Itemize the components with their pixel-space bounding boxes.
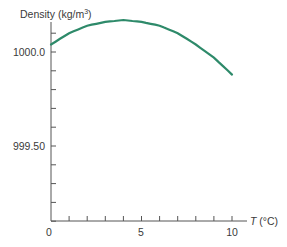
y-tick-label-1000: 1000.0 (13, 46, 45, 58)
density-curve (51, 20, 232, 75)
x-tick-label-10: 10 (226, 226, 238, 238)
density-chart: Density (kg/m3) 1000.0 999.50 0 5 10 T (… (0, 0, 287, 247)
y-tick-label-999-50: 999.50 (13, 140, 45, 152)
x-ticks (69, 216, 232, 221)
x-tick-label-5: 5 (138, 226, 144, 238)
y-ticks (51, 33, 56, 221)
x-axis-title: T (°C) (250, 215, 278, 227)
y-axis-title: Density (kg/m3) (20, 8, 92, 20)
x-tick-label-0: 0 (46, 226, 52, 238)
